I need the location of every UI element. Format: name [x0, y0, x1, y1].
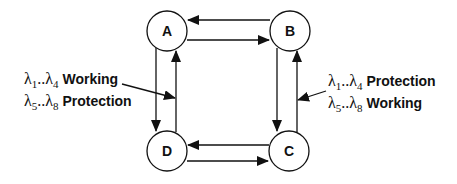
node-d: D: [147, 131, 187, 171]
node-d-label: D: [162, 143, 172, 159]
node-b-label: B: [285, 23, 295, 39]
node-b: B: [270, 11, 310, 51]
node-a-label: A: [162, 23, 172, 39]
node-c-label: C: [284, 143, 294, 159]
right-annotation-line2: λ5..λ8 Working: [328, 94, 422, 117]
node-a: A: [147, 11, 187, 51]
node-c: C: [269, 131, 309, 171]
right-annotation-line1: λ1..λ4 Protection: [328, 72, 436, 95]
left-annotation-line2: λ5..λ8 Protection: [24, 92, 132, 115]
right-annotation-pointer: [298, 91, 326, 100]
left-annotation-line1: λ1..λ4 Working: [24, 70, 118, 93]
